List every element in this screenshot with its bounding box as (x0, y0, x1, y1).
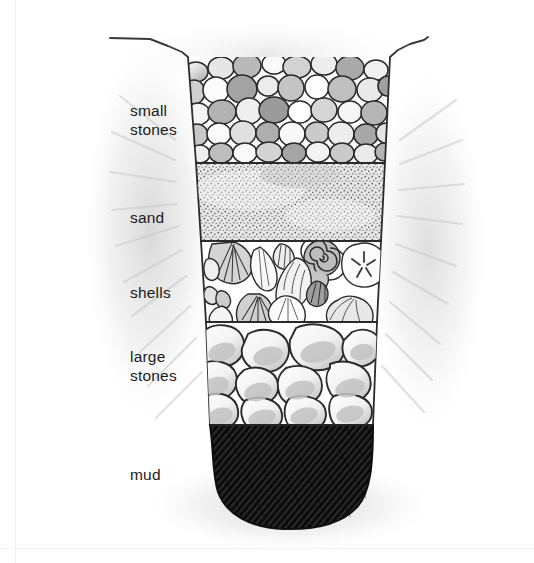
layer-label-mud: mud (130, 465, 161, 484)
layer-large-stones (196, 322, 380, 431)
layer-small-stones (183, 53, 398, 164)
page-canvas: small stones sand shells large stones mu… (0, 0, 534, 563)
layer-label-sand: sand (130, 208, 164, 227)
cross-section-figure (0, 0, 534, 563)
layer-label-large-stones: large stones (130, 347, 177, 385)
layer-sand (195, 162, 385, 241)
layer-shells (201, 238, 387, 322)
layer-label-shells: shells (130, 283, 171, 302)
layer-label-small-stones: small stones (130, 101, 177, 139)
